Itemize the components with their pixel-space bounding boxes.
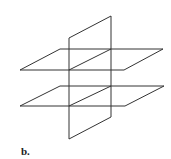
figure-caption: b. bbox=[21, 145, 30, 157]
bottom-intersection bbox=[69, 86, 111, 106]
bottom-horizontal-plane bbox=[20, 86, 164, 106]
three-planes-diagram bbox=[0, 0, 171, 159]
vertical-plane bbox=[69, 16, 111, 139]
top-horizontal-plane bbox=[20, 49, 163, 70]
top-intersection bbox=[69, 49, 111, 70]
